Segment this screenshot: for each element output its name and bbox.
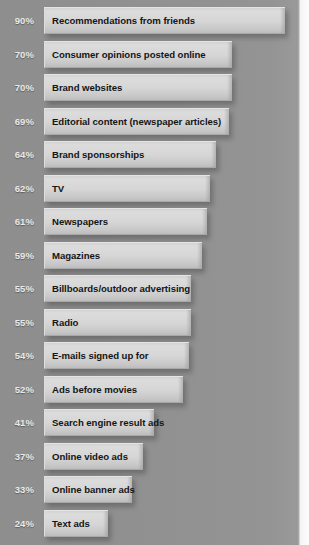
bar-category-label: TV (52, 175, 64, 202)
bar-category-label: Search engine result ads (52, 409, 164, 436)
bar-value-label: 64% (0, 141, 34, 168)
bar-category-label: Consumer opinions posted online (52, 41, 206, 68)
bar-category-label: E-mails signed up for (52, 342, 149, 369)
bar-value-label: 37% (0, 443, 34, 470)
bar-value-label: 52% (0, 376, 34, 403)
bar-category-label: Radio (52, 309, 78, 336)
bar-category-label: Brand sponsorships (52, 141, 144, 168)
horizontal-bar-chart: 90%Recommendations from friends70%Consum… (0, 0, 309, 545)
bar-value-label: 69% (0, 108, 34, 135)
bar-category-label: Online video ads (52, 443, 128, 470)
bar-category-label: Text ads (52, 510, 90, 537)
bar-category-label: Recommendations from friends (52, 7, 195, 34)
bar-value-label: 62% (0, 175, 34, 202)
bar-value-label: 59% (0, 242, 34, 269)
bar-category-label: Online banner ads (52, 476, 135, 503)
bar-value-label: 55% (0, 275, 34, 302)
bar-category-label: Newspapers (52, 208, 108, 235)
bar-value-label: 90% (0, 7, 34, 34)
bar-value-label: 33% (0, 476, 34, 503)
bar (44, 175, 210, 202)
bar-category-label: Billboards/outdoor advertising (52, 275, 190, 302)
bar-value-label: 55% (0, 309, 34, 336)
bar-fill (44, 175, 210, 202)
bar-category-label: Brand websites (52, 74, 122, 101)
bar-category-label: Editorial content (newspaper articles) (52, 108, 221, 135)
bar-value-label: 24% (0, 510, 34, 537)
bar-value-label: 70% (0, 41, 34, 68)
bar-category-label: Ads before movies (52, 376, 137, 403)
bar-value-label: 41% (0, 409, 34, 436)
bar-value-label: 70% (0, 74, 34, 101)
bar-category-label: Magazines (52, 242, 100, 269)
bars-layer: 90%Recommendations from friends70%Consum… (0, 0, 309, 545)
bar-value-label: 54% (0, 342, 34, 369)
bar-value-label: 61% (0, 208, 34, 235)
